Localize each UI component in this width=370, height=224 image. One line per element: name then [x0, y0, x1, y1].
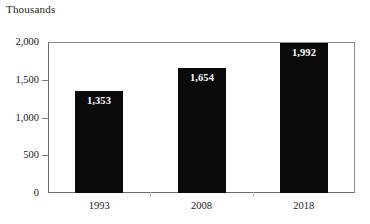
bar-value-label: 1,353: [75, 95, 123, 106]
y-axis-tick-label: 500: [23, 147, 39, 162]
bar-group: 1,654: [178, 68, 226, 193]
x-axis-tick-mark: [150, 192, 151, 196]
y-axis-tick-label: 1,000: [15, 110, 39, 125]
x-axis-category-label: 2008: [162, 199, 242, 213]
x-axis-category-label: 2018: [264, 199, 344, 213]
chart-unit-label: Thousands: [6, 2, 55, 16]
bar: 1,654: [178, 68, 226, 193]
bar-group: 1,992: [280, 43, 328, 193]
y-axis-tick-label: 2,000: [15, 34, 39, 49]
x-axis-category-label: 1993: [59, 199, 139, 213]
y-axis-tick-mark: [42, 193, 48, 194]
bar: 1,353: [75, 91, 123, 193]
y-axis-tick-label: 0: [34, 185, 39, 200]
bar-value-label: 1,992: [280, 47, 328, 58]
x-axis-tick-mark: [253, 192, 254, 196]
y-axis-tick-label: 1,500: [15, 72, 39, 87]
bar-group: 1,353: [75, 91, 123, 193]
bar: 1,992: [280, 43, 328, 193]
bar-value-label: 1,654: [178, 72, 226, 83]
